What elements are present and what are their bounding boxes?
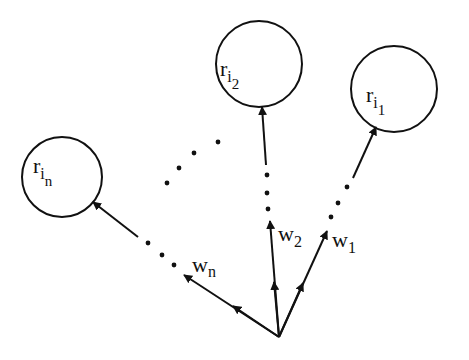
ellipsis-dots bbox=[165, 140, 221, 186]
weighted-edges-diagram: ri2 ri1 rin bbox=[0, 0, 469, 360]
edge-w2-dots bbox=[265, 173, 271, 212]
node-r-i1 bbox=[351, 46, 437, 132]
label-r-i1: ri1 bbox=[366, 82, 385, 118]
edge-w2 bbox=[262, 107, 279, 337]
edge-wn-dots bbox=[146, 241, 177, 268]
label-r-in: rin bbox=[33, 153, 53, 189]
node-r-i2 bbox=[216, 21, 302, 107]
label-w1: w1 bbox=[332, 227, 356, 256]
label-w2: w2 bbox=[278, 221, 302, 250]
edge-w1-dots bbox=[329, 185, 350, 220]
edge-wn bbox=[93, 202, 279, 337]
label-wn: wn bbox=[192, 252, 216, 280]
